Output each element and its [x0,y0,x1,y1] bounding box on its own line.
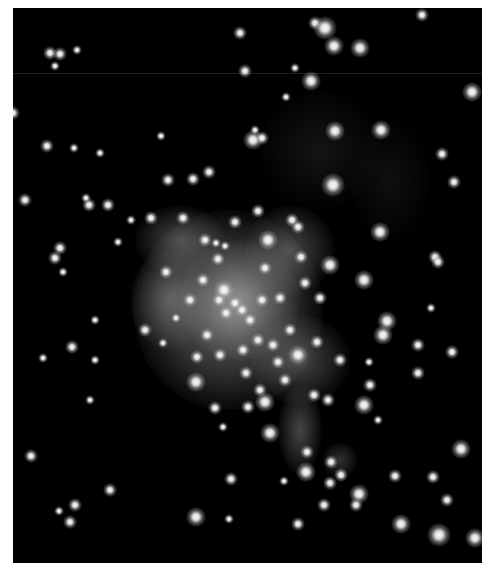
star [428,250,442,264]
star [324,36,343,55]
star [95,148,105,158]
star [43,46,57,60]
nebula-blob [130,250,210,350]
star [324,455,338,469]
star [451,439,470,458]
star [82,198,96,212]
star [238,64,252,78]
star [321,393,335,407]
star [373,415,383,425]
star [255,392,274,411]
star [144,211,158,225]
star [24,449,38,463]
nebula-blob [350,120,430,240]
star [364,357,374,367]
star [198,233,212,247]
star [58,267,68,277]
star [415,8,429,22]
star [281,92,291,102]
star [48,251,62,265]
star [236,343,250,357]
star [161,173,175,187]
nebula-blob [133,210,323,410]
star [72,45,82,55]
star [158,338,168,348]
star [260,423,279,442]
star [377,311,396,330]
star [283,323,297,337]
nebula-blob [260,90,380,210]
star [388,469,402,483]
star [235,303,249,317]
star [214,280,233,299]
star [186,507,205,526]
star [138,323,152,337]
star [301,71,320,90]
astronomical-image [13,8,482,563]
star [370,222,389,241]
star [219,306,233,320]
star [251,204,265,218]
star [54,506,64,516]
star [271,355,285,369]
nebula-blob [245,205,335,295]
star [349,484,368,503]
star [447,175,461,189]
star [81,193,91,203]
star [190,350,204,364]
star [65,340,79,354]
star [391,514,410,533]
star [171,313,181,323]
star [38,353,48,363]
nebula-blob [135,205,225,275]
star [50,61,60,71]
star [156,131,166,141]
star [176,211,190,225]
star [279,476,289,486]
star [212,293,226,307]
star [285,213,299,227]
star [291,517,305,531]
star [350,38,369,57]
star [253,383,267,397]
star [294,250,308,264]
star [411,338,425,352]
star [255,131,269,145]
star [431,255,445,269]
star [250,125,260,135]
star [224,514,234,524]
star [363,378,377,392]
star [313,291,327,305]
star [440,493,454,507]
star [320,255,339,274]
star [354,270,373,289]
star [296,462,315,481]
star [40,139,54,153]
star [310,335,324,349]
star [255,293,269,307]
star [126,215,136,225]
star [258,230,277,249]
star [208,401,222,415]
star [211,252,225,266]
star [321,173,345,197]
star [291,220,305,234]
star [53,47,67,61]
star [465,528,482,547]
star [69,143,79,153]
star [411,366,425,380]
star [426,303,436,313]
star [334,468,348,482]
star [63,515,77,529]
nebula-blob [180,240,300,360]
star [228,296,242,310]
star [290,63,300,73]
star [333,353,347,367]
star [211,238,221,248]
star [445,345,459,359]
star [90,315,100,325]
nebula-blob [278,385,322,475]
star [308,16,322,30]
star [159,265,173,279]
star [266,338,280,352]
